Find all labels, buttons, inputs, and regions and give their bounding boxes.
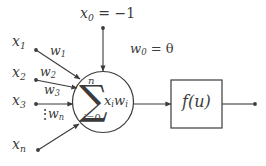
weight-label-3: w3 [44, 84, 60, 97]
input-label-1: x1 [12, 34, 26, 48]
output-connection [222, 102, 257, 106]
weight-label-1: w1 [50, 45, 66, 58]
output-dot [253, 102, 257, 106]
bias-connection [101, 26, 105, 71]
input-arrow-n [38, 124, 79, 150]
diagram-vector-layer [0, 0, 266, 166]
weight-label-n: wn [48, 108, 64, 121]
summation-term-label: xiwi [104, 94, 128, 107]
neuron-diagram-canvas: x0 = −1 w0 = θ x1 w1 x2 w2 x3 w3 ⋮ wn xn… [0, 0, 266, 166]
input-label-3: x3 [12, 93, 26, 107]
summation-lower-limit: i=0 [83, 113, 101, 123]
bias-weight-label: w0 = θ [130, 42, 174, 55]
activation-function-label: f(u) [182, 94, 211, 110]
weight-label-2: w2 [40, 66, 56, 79]
bias-input-label: x0 = −1 [80, 6, 135, 20]
input-label-n: xn [12, 137, 26, 151]
input-connection-n [36, 124, 79, 152]
input-label-2: x2 [12, 65, 26, 79]
